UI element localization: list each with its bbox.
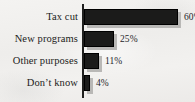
bar-row: Tax cut 60% xyxy=(0,7,195,29)
bar-fill xyxy=(84,9,178,25)
bar-graphic xyxy=(84,31,114,47)
bar-fill xyxy=(84,75,90,91)
bar-category-label: Tax cut xyxy=(0,10,78,23)
bar-graphic xyxy=(84,53,99,69)
bar-category-label: Don’t know xyxy=(0,76,78,89)
plot-area: Tax cut 60% New programs 25% Other purpo… xyxy=(0,0,195,102)
bar-graphic xyxy=(84,9,178,25)
bar-value-label: 4% xyxy=(96,77,109,89)
bar-category-label: Other purposes xyxy=(0,54,78,67)
bar-category-label: New programs xyxy=(0,32,78,45)
bar-row: Other purposes 11% xyxy=(0,51,195,73)
bar-row: New programs 25% xyxy=(0,29,195,51)
bar-value-label: 60% xyxy=(184,11,195,23)
bar-value-label: 11% xyxy=(105,55,122,67)
bar-chart: Tax cut 60% New programs 25% Other purpo… xyxy=(0,0,195,102)
bar-graphic xyxy=(84,75,90,91)
bar-fill xyxy=(84,53,99,69)
bar-value-label: 25% xyxy=(120,33,138,45)
bar-fill xyxy=(84,31,114,47)
bar-row: Don’t know 4% xyxy=(0,73,195,95)
